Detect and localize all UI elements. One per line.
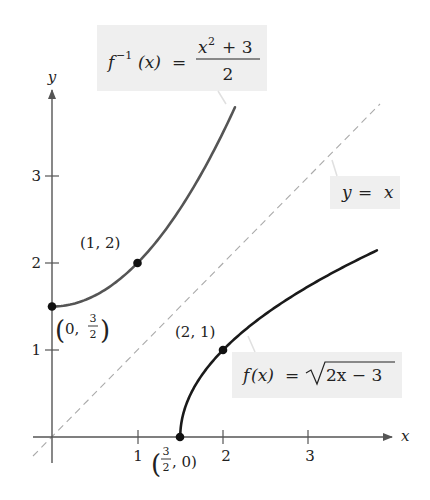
point-label-3half-0: ( 3 2 , 0) bbox=[151, 445, 197, 479]
identity-label: y = x bbox=[341, 182, 394, 202]
label-rest: , 0) bbox=[172, 453, 197, 471]
id-x: x bbox=[384, 182, 394, 202]
func-radicand: 2x − 3 bbox=[326, 365, 382, 385]
inverse-leader-line bbox=[218, 91, 226, 104]
function-inverse-graph: 1 2 3 1 2 3 x y (1, 2) (2, 1) ( 0, 3 2 )… bbox=[0, 0, 430, 500]
identity-leader-line bbox=[332, 160, 337, 176]
id-y: y bbox=[341, 182, 352, 202]
inv-num-x: x bbox=[198, 37, 208, 57]
func-arg: (x) bbox=[251, 365, 274, 385]
inv-num-sup: 2 bbox=[208, 35, 215, 48]
fraction-num: 3 bbox=[90, 312, 97, 325]
point-2-1 bbox=[219, 346, 228, 355]
inv-num-rest: + 3 bbox=[222, 37, 252, 57]
inverse-curve bbox=[52, 107, 235, 306]
point-0-3half bbox=[48, 302, 57, 311]
paren-close: ) bbox=[100, 315, 110, 345]
point-3half-0 bbox=[176, 433, 185, 442]
paren-open: ( bbox=[55, 315, 65, 345]
inv-den: 2 bbox=[223, 64, 234, 84]
fraction-den: 2 bbox=[90, 328, 97, 341]
x-tick-label-3: 3 bbox=[305, 447, 315, 465]
point-label-0-3half: ( 0, 3 2 ) bbox=[55, 312, 110, 345]
x-tick-label-2: 2 bbox=[221, 447, 231, 465]
f-curve bbox=[180, 250, 377, 437]
x-tick-label-1: 1 bbox=[133, 447, 143, 465]
func-eq: = bbox=[285, 365, 299, 385]
y-tick-label-2: 2 bbox=[31, 254, 41, 272]
id-eq: = bbox=[358, 182, 372, 202]
point-label-1-2: (1, 2) bbox=[80, 234, 120, 252]
y-tick-label-1: 1 bbox=[31, 341, 41, 359]
point-label-2-1: (2, 1) bbox=[175, 323, 215, 341]
x-axis-label: x bbox=[401, 427, 410, 445]
fraction-den: 2 bbox=[163, 461, 170, 474]
point-1-2 bbox=[133, 259, 142, 268]
func-leader-line bbox=[248, 336, 255, 352]
paren-open: ( bbox=[151, 449, 161, 479]
label-zero-comma: 0, bbox=[65, 320, 79, 338]
y-tick-label-3: 3 bbox=[31, 167, 41, 185]
y-axis-label: y bbox=[47, 68, 57, 86]
identity-line bbox=[33, 104, 380, 456]
inv-sup: −1 bbox=[116, 49, 132, 62]
inv-arg: (x) bbox=[138, 52, 161, 72]
fraction-num: 3 bbox=[163, 445, 170, 458]
inv-eq: = bbox=[172, 52, 186, 72]
